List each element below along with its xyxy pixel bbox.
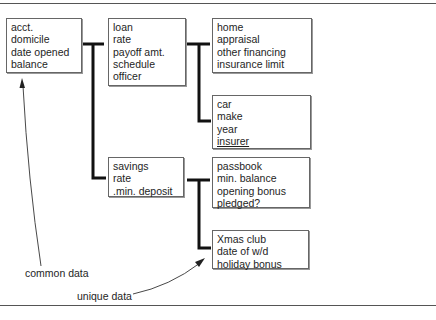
field-label: home [217,21,311,33]
field-label: date of w/d [217,245,308,257]
field-label: insurer [217,135,310,147]
field-label: min. balance [217,172,309,184]
field-label: balance [11,58,81,70]
field-label: make [217,110,310,122]
common-data-arrow-line [23,86,41,266]
common-data-label: common data [25,267,89,279]
field-label: insurance limit [217,58,311,70]
field-label: appraisal [217,33,311,45]
field-label: opening bonus [217,185,309,197]
field-label: loan [113,21,185,33]
field-label: domicile [11,33,81,45]
connector-account-to-savings [93,44,106,178]
field-label: payoff amt. [113,46,185,58]
box-passbook: passbook min. balance opening bonus pled… [212,157,310,208]
box-loan: loan rate payoff amt. schedule officer [108,18,186,86]
box-xmas-club: Xmas club date of w/d holiday bonus [212,230,309,269]
connector-loan-to-car [199,44,211,121]
unique-data-arrow-line [133,263,200,294]
box-account: acct. domicile date opened balance [6,18,82,73]
field-label: acct. [11,21,81,33]
common-data-arrowhead [20,78,26,88]
field-label: car [217,98,310,110]
field-label: pledged? [217,197,309,209]
field-label: officer [113,70,185,82]
box-home: home appraisal other financing insurance… [212,18,312,73]
field-label: holiday bonus [217,258,308,270]
field-label: passbook [217,160,309,172]
field-label: rate [113,172,183,184]
unique-data-label: unique data [77,290,132,302]
field-label: year [217,123,310,135]
field-label: other financing [217,46,311,58]
connector-savings-to-xmas [199,180,211,248]
field-label: schedule [113,58,185,70]
field-label: .min. deposit [113,185,183,197]
field-label: date opened [11,46,81,58]
field-label: rate [113,33,185,45]
box-savings: savings rate .min. deposit [108,157,184,197]
box-car: car make year insurer [212,95,311,149]
field-label: Xmas club [217,233,308,245]
field-label: savings [113,160,183,172]
